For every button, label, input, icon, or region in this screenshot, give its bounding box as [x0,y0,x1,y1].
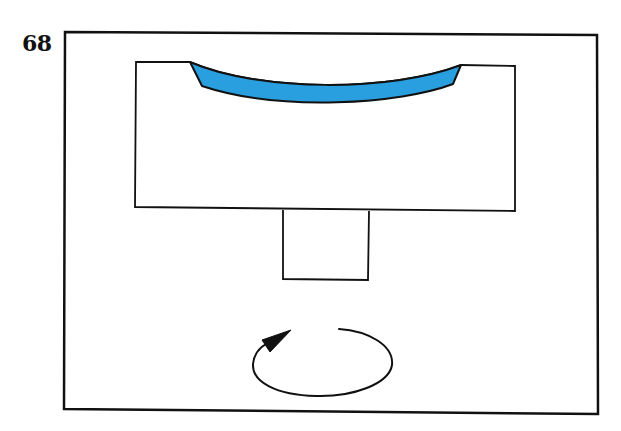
rotation-arrow-icon [253,329,392,396]
shaft [283,210,369,280]
diagram-canvas [0,0,621,431]
